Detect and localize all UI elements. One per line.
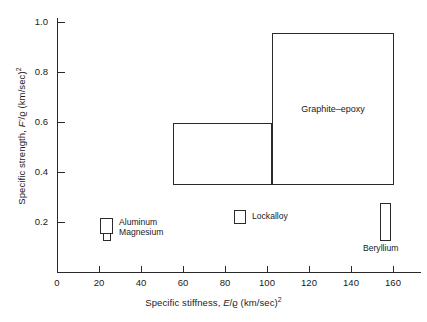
x-tick-label: 80 (210, 278, 240, 288)
x-axis-title-exponent: 2 (278, 296, 282, 303)
y-axis-title-rho: ϱ (16, 111, 27, 117)
region-label-graphite-epoxy: Graphite–epoxy (272, 104, 394, 114)
x-tick (183, 266, 184, 273)
region-boron-epoxy (173, 123, 272, 185)
x-tick (309, 266, 310, 273)
y-axis-line (57, 18, 58, 272)
x-axis-line (57, 272, 421, 273)
x-tick (351, 266, 352, 273)
x-tick (141, 266, 142, 273)
point-label-lockalloy: Lockalloy (252, 212, 288, 222)
x-tick-label: 140 (336, 278, 366, 288)
y-axis-title-slash: / (16, 117, 27, 120)
y-axis-title: Specific strength, F'/ϱ (km/sec)2 (15, 11, 27, 261)
y-axis-title-prefix: Specific strength, (16, 127, 27, 204)
x-tick-label: 120 (294, 278, 324, 288)
x-tick-label: 0 (42, 278, 72, 288)
y-tick (58, 122, 65, 123)
y-axis-title-units: (km/sec) (16, 71, 27, 111)
x-tick-label: 40 (126, 278, 156, 288)
x-tick (267, 266, 268, 273)
x-tick (99, 266, 100, 273)
y-tick (58, 222, 65, 223)
x-axis-title: Specific stiffness, E/ϱ (km/sec)2 (0, 296, 427, 308)
x-tick-label: 100 (252, 278, 282, 288)
x-tick (393, 266, 394, 273)
y-tick (58, 22, 65, 23)
point-label-beryllium: Beryllium (363, 244, 398, 254)
y-axis-title-exponent: 2 (15, 67, 22, 71)
x-axis-title-units: (km/sec) (238, 297, 278, 308)
y-axis-title-symbol: F' (16, 120, 27, 128)
x-tick-label: 20 (84, 278, 114, 288)
marker-lockalloy (234, 210, 246, 224)
x-tick (225, 266, 226, 273)
marker-aluminum (100, 218, 113, 234)
x-axis-title-prefix: Specific stiffness, (145, 297, 223, 308)
chart-figure: 0.20.40.60.81.0 020406080100120140160 Gr… (0, 0, 427, 322)
y-tick (58, 72, 65, 73)
x-tick-label: 60 (168, 278, 198, 288)
point-label-magnesium: Magnesium (119, 228, 163, 238)
y-tick (58, 172, 65, 173)
x-tick-label: 160 (378, 278, 408, 288)
marker-beryllium (380, 203, 391, 241)
